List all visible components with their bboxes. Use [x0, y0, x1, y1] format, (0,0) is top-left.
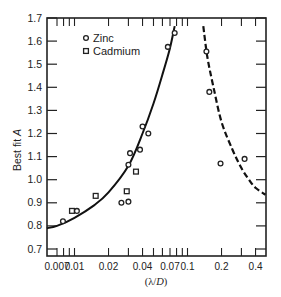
y-axis-label: Best fit A	[11, 129, 23, 171]
plot-frame	[47, 18, 266, 256]
x-tick-label: 0.01	[65, 261, 85, 272]
zinc-point	[207, 90, 212, 95]
data-points	[61, 31, 247, 224]
y-tick-label: 1.6	[27, 35, 42, 47]
y-tick-label: 1.1	[27, 150, 42, 162]
x-tick-label: 0.4	[249, 261, 263, 272]
zinc-point	[119, 200, 124, 205]
x-tick-label: 0.2	[215, 261, 229, 272]
legend-label-zinc: Zinc	[93, 32, 114, 44]
cadmium-point	[124, 189, 129, 194]
zinc-point	[242, 157, 247, 162]
y-tick-label: 1.3	[27, 104, 42, 116]
zinc-point	[172, 31, 177, 36]
zinc-point	[126, 199, 131, 204]
zinc-point	[128, 151, 133, 156]
x-tick-label: 0.02	[99, 261, 119, 272]
legend: Zinc Cadmium	[84, 32, 140, 57]
circle-marker-icon	[84, 36, 89, 41]
y-tick-label: 0.9	[27, 196, 42, 208]
cadmium-point	[70, 208, 75, 213]
y-tick-label: 0.7	[27, 243, 42, 255]
y-tick-label: 1.4	[27, 81, 42, 93]
cadmium-point	[93, 193, 98, 198]
zinc-point	[146, 131, 151, 136]
legend-item-zinc: Zinc	[84, 32, 115, 44]
square-marker-icon	[84, 49, 89, 54]
fit-curves	[47, 26, 266, 228]
zinc-point	[126, 162, 131, 167]
x-tick-label: 0.1	[181, 261, 195, 272]
zinc-point	[140, 124, 145, 129]
y-tick-label: 1.2	[27, 127, 42, 139]
zinc-point	[165, 44, 170, 49]
zinc-point	[74, 208, 79, 213]
chart-figure: 0.70.80.91.01.11.21.31.41.51.61.7 0.0070…	[0, 0, 281, 297]
y-tick-label: 1.0	[27, 173, 42, 185]
y-tick-label: 0.8	[27, 219, 42, 231]
y-tick-label: 1.7	[27, 12, 42, 24]
legend-label-cadmium: Cadmium	[93, 45, 140, 57]
zinc-point	[218, 161, 223, 166]
zinc-point	[138, 147, 143, 152]
x-tick-label: 0.04	[133, 261, 153, 272]
cadmium-point	[134, 169, 139, 174]
x-tick-label: 0.07	[160, 261, 180, 272]
x-axis-label: (λ/D)	[145, 276, 168, 288]
legend-item-cadmium: Cadmium	[84, 45, 140, 57]
zinc-point	[61, 219, 66, 224]
y-tick-label: 1.5	[27, 58, 42, 70]
zinc-point	[204, 49, 209, 54]
